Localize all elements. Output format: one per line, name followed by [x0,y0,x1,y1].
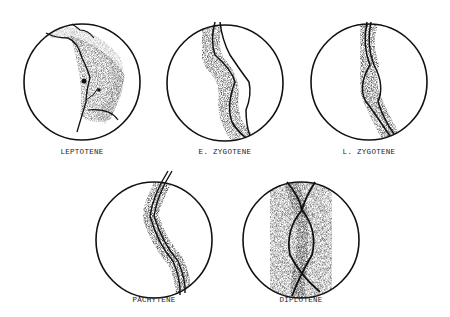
diplotene-cell [243,172,359,300]
meiosis-prophase-diagram [0,0,450,317]
label-leptotene: LEPTOTENE [60,148,103,156]
label-diplotene: DIPLOTENE [279,296,322,304]
label-pachytene: PACHYTENE [132,296,175,304]
pachytene-cell [96,170,212,300]
label-early-zygotene: E. ZYGOTENE [199,148,252,156]
late-zygotene-cell [311,22,427,140]
leptotene-cell [24,24,140,140]
label-late-zygotene: L. ZYGOTENE [343,148,396,156]
early-zygotene-cell [167,22,283,141]
